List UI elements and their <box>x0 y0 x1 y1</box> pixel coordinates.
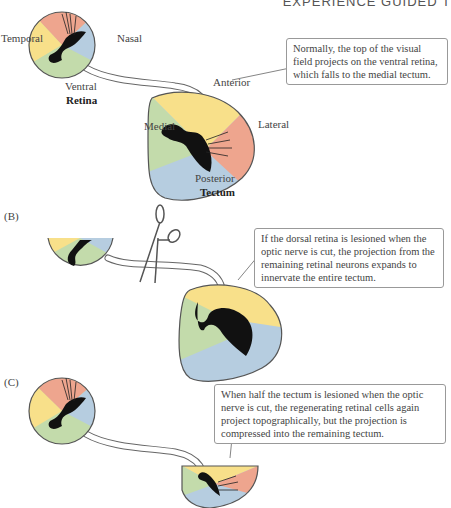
tectum-lateral-label: Lateral <box>258 118 289 130</box>
tectum-posterior-label: Posterior <box>195 172 235 184</box>
panel-label-c: (C) <box>4 376 19 388</box>
callout-half-tectum: When half the tectum is lesioned when th… <box>214 384 446 444</box>
tectum-anterior-label: Anterior <box>213 76 250 88</box>
panel-label-b: (B) <box>4 210 19 222</box>
retina-nasal-label: Nasal <box>117 32 142 44</box>
tectum-medial-label: Medial <box>144 120 175 132</box>
retina-ventral-label: Ventral <box>65 80 97 92</box>
callout-normal: Normally, the top of the visual field pr… <box>286 38 448 85</box>
retina-temporal-label: Temporal <box>1 32 43 44</box>
tectum-title: Tectum <box>200 186 235 198</box>
callout-dorsal-lesion: If the dorsal retina is lesioned when th… <box>254 228 444 288</box>
retina-title: Retina <box>66 94 97 106</box>
tectum-c <box>180 466 260 508</box>
scissors-icon <box>140 205 182 283</box>
